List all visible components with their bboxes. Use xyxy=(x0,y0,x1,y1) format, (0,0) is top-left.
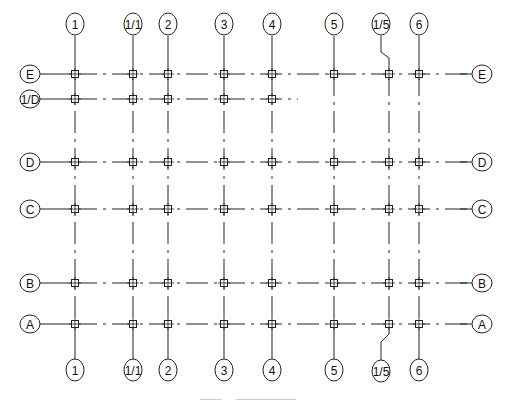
axis-bubble-B-right: B xyxy=(472,274,492,292)
axis-bubble-3-bottom: 3 xyxy=(215,359,233,381)
column-marker xyxy=(218,156,230,168)
column-marker xyxy=(127,318,139,330)
axis-bubble-D-right: D xyxy=(472,153,492,171)
column-marker xyxy=(69,318,81,330)
axis-bubble-1-bottom: 1 xyxy=(66,359,84,381)
column-marker xyxy=(162,93,174,105)
column-marker xyxy=(266,277,278,289)
axis-bubble-5-top: 5 xyxy=(325,13,343,35)
axis-bubble-2-bottom: 2 xyxy=(159,359,177,381)
column-marker xyxy=(162,156,174,168)
axis-bubble-6-bottom: 6 xyxy=(410,359,428,381)
axis-bubble-D-left: D xyxy=(20,153,40,171)
column-marker xyxy=(127,93,139,105)
column-marker xyxy=(266,156,278,168)
column-marker xyxy=(127,156,139,168)
axis-bubble-E-left: E xyxy=(20,65,40,83)
svg-text:5: 5 xyxy=(331,364,338,378)
column-marker xyxy=(69,68,81,80)
column-marker xyxy=(413,277,425,289)
column-marker xyxy=(328,318,340,330)
column-marker xyxy=(218,93,230,105)
column-marker xyxy=(266,203,278,215)
column-marker xyxy=(328,156,340,168)
axis-bubble-E-right: E xyxy=(472,65,492,83)
axis-bubble-3-top: 3 xyxy=(215,13,233,35)
column-marker xyxy=(413,68,425,80)
svg-text:B: B xyxy=(26,277,34,291)
column-marker xyxy=(413,318,425,330)
svg-text:A: A xyxy=(26,318,34,332)
axis-bubble-1-top: 1 xyxy=(66,13,84,35)
column-marker xyxy=(328,68,340,80)
axis-bubble-1-D-left: 1/D xyxy=(20,90,40,108)
svg-text:4: 4 xyxy=(269,18,276,32)
axis-bubble-B-left: B xyxy=(20,274,40,292)
axis-bubble-4-top: 4 xyxy=(263,13,281,35)
svg-text:E: E xyxy=(478,68,486,82)
axis-1-D-horizontal: 1/D xyxy=(20,90,298,108)
column-marker xyxy=(218,203,230,215)
column-marker xyxy=(162,203,174,215)
svg-text:6: 6 xyxy=(416,18,423,32)
column-marker xyxy=(328,203,340,215)
column-marker xyxy=(162,318,174,330)
column-marker xyxy=(127,68,139,80)
axis-bubble-2-top: 2 xyxy=(159,13,177,35)
column-marker xyxy=(127,203,139,215)
column-marker xyxy=(69,203,81,215)
column-marker xyxy=(266,68,278,80)
svg-text:5: 5 xyxy=(331,18,338,32)
axis-bubble-C-right: C xyxy=(472,200,492,218)
grid-plan-drawing: 111/11/1223344551/51/566EE1/DDDCCBBAA xyxy=(0,0,509,400)
column-marker xyxy=(383,318,395,330)
grid-plan-svg: 111/11/1223344551/51/566EE1/DDDCCBBAA xyxy=(0,0,509,400)
svg-text:C: C xyxy=(478,203,487,217)
column-marker xyxy=(266,318,278,330)
column-marker xyxy=(328,277,340,289)
column-marker xyxy=(218,277,230,289)
figure-caption xyxy=(200,387,320,397)
svg-text:B: B xyxy=(478,277,486,291)
column-marker xyxy=(69,156,81,168)
svg-text:1: 1 xyxy=(72,18,79,32)
column-marker xyxy=(266,93,278,105)
svg-text:C: C xyxy=(26,203,35,217)
svg-text:D: D xyxy=(26,156,35,170)
svg-text:6: 6 xyxy=(416,364,423,378)
column-marker xyxy=(383,156,395,168)
column-marker xyxy=(413,156,425,168)
svg-text:A: A xyxy=(478,318,486,332)
column-marker xyxy=(383,68,395,80)
column-marker xyxy=(383,203,395,215)
axis-bubble-1-1-top: 1/1 xyxy=(124,13,142,35)
svg-text:1/D: 1/D xyxy=(21,93,40,107)
svg-text:2: 2 xyxy=(165,18,172,32)
svg-text:4: 4 xyxy=(269,364,276,378)
svg-text:1/1: 1/1 xyxy=(125,18,142,32)
column-marker xyxy=(413,203,425,215)
axis-bubble-1-5-bottom: 1/5 xyxy=(372,360,390,382)
svg-text:1/5: 1/5 xyxy=(373,18,390,32)
svg-text:3: 3 xyxy=(221,18,228,32)
column-marker xyxy=(383,277,395,289)
svg-text:1/1: 1/1 xyxy=(125,364,142,378)
axis-bubble-1-1-bottom: 1/1 xyxy=(124,359,142,381)
column-marker xyxy=(69,277,81,289)
column-marker xyxy=(127,277,139,289)
axis-bubble-C-left: C xyxy=(20,200,40,218)
svg-text:3: 3 xyxy=(221,364,228,378)
axis-bubble-A-left: A xyxy=(20,315,40,333)
column-marker xyxy=(69,93,81,105)
svg-text:1: 1 xyxy=(72,364,79,378)
column-marker xyxy=(162,68,174,80)
column-marker xyxy=(218,68,230,80)
axis-bubble-4-bottom: 4 xyxy=(263,359,281,381)
svg-text:E: E xyxy=(26,68,34,82)
svg-text:1/5: 1/5 xyxy=(373,365,390,379)
column-marker xyxy=(162,277,174,289)
axis-bubble-1-5-top: 1/5 xyxy=(372,13,390,35)
axis-bubble-A-right: A xyxy=(472,315,492,333)
axis-bubble-6-top: 6 xyxy=(410,13,428,35)
svg-text:2: 2 xyxy=(165,364,172,378)
